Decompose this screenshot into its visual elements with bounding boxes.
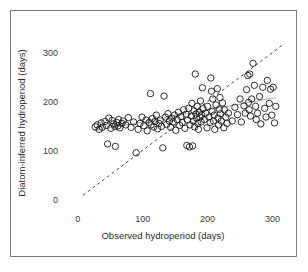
data-point xyxy=(258,121,264,127)
x-axis-tick-labels: 0100200300 xyxy=(75,214,280,224)
data-point xyxy=(247,71,253,77)
data-point xyxy=(245,72,251,78)
data-point xyxy=(243,87,249,93)
data-point xyxy=(238,119,244,125)
x-axis-title: Observed hydroperiod (days) xyxy=(101,230,224,241)
x-tick-label: 300 xyxy=(265,214,280,224)
data-point xyxy=(250,60,256,66)
data-point xyxy=(103,122,109,128)
data-point xyxy=(256,93,262,99)
data-point xyxy=(104,141,110,147)
data-point xyxy=(144,128,150,134)
data-point xyxy=(273,103,279,109)
data-point xyxy=(251,82,257,88)
y-tick-label: 200 xyxy=(43,97,58,107)
data-point xyxy=(254,110,260,116)
data-point xyxy=(192,71,198,77)
data-point-group xyxy=(92,60,279,156)
scatter-plot: 0100200300 0100200300 Observed hydroperi… xyxy=(11,11,298,258)
data-point xyxy=(125,114,131,120)
y-axis-title: Diatom-inferred hydroperiod (days) xyxy=(16,49,27,196)
data-point xyxy=(229,118,235,124)
data-point xyxy=(213,102,219,108)
data-point xyxy=(246,107,252,113)
data-point xyxy=(160,145,166,151)
data-point xyxy=(247,113,253,119)
data-point xyxy=(212,126,218,132)
data-point xyxy=(252,103,258,109)
data-point xyxy=(237,96,243,102)
figure-frame: 0100200300 0100200300 Observed hydroperi… xyxy=(10,10,297,257)
data-point xyxy=(199,85,205,91)
data-point xyxy=(269,112,275,118)
y-tick-label: 100 xyxy=(43,146,58,156)
data-point xyxy=(221,125,227,131)
data-point xyxy=(264,77,270,83)
x-tick-label: 100 xyxy=(135,214,150,224)
y-tick-label: 0 xyxy=(53,195,58,205)
data-point xyxy=(266,100,272,106)
data-point xyxy=(197,98,203,104)
data-point xyxy=(219,100,225,106)
data-point xyxy=(208,75,214,81)
data-point xyxy=(161,93,167,99)
data-point xyxy=(147,90,153,96)
data-point xyxy=(184,117,190,123)
x-tick-label: 200 xyxy=(200,214,215,224)
data-point xyxy=(214,86,220,92)
y-tick-label: 300 xyxy=(43,48,58,58)
data-point xyxy=(130,119,136,125)
y-axis-tick-labels: 0100200300 xyxy=(43,48,58,205)
x-tick-label: 0 xyxy=(75,214,80,224)
data-point xyxy=(210,96,216,102)
data-point xyxy=(112,143,118,149)
data-point xyxy=(260,84,266,90)
data-point xyxy=(102,118,108,124)
data-point xyxy=(234,111,240,117)
data-point xyxy=(271,120,277,126)
